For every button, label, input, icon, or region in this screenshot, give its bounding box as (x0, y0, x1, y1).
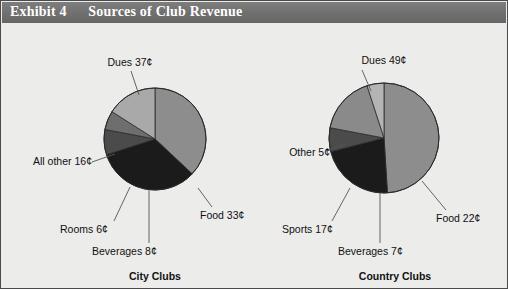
exhibit-body: Dues 37¢ All other 16¢ Food 33¢ Rooms 6¢… (2, 23, 506, 288)
callout-country-other: Other 5¢ (254, 146, 330, 158)
callout-country-food: Food 22¢ (436, 212, 506, 224)
page-title: Sources of Club Revenue (88, 4, 242, 19)
leader-city-rooms (114, 187, 130, 221)
exhibit-figure: Exhibit 4 Sources of Club Revenue Dues 3… (0, 0, 508, 289)
caption-city-clubs: City Clubs (105, 270, 205, 282)
leader-city-dues (131, 71, 139, 95)
exhibit-label: Exhibit 4 (10, 4, 67, 19)
callout-city-rooms: Rooms 6¢ (60, 223, 130, 235)
pie-chart-country-clubs: Dues 49¢ Other 5¢ Food 22¢ Sports 17¢ Be… (254, 23, 506, 288)
callout-city-all-other: All other 16¢ (2, 155, 92, 167)
leader-country-food (422, 181, 446, 210)
callout-country-beverages: Beverages 7¢ (338, 245, 428, 257)
callout-city-dues: Dues 37¢ (80, 56, 180, 68)
leader-city-food (198, 188, 212, 207)
exhibit-header-bar: Exhibit 4 Sources of Club Revenue (2, 2, 506, 23)
header-text-group: Exhibit 4 Sources of Club Revenue (10, 4, 242, 20)
callout-country-dues: Dues 49¢ (334, 54, 434, 66)
pie-chart-city-clubs: Dues 37¢ All other 16¢ Food 33¢ Rooms 6¢… (2, 23, 254, 288)
pie-slice-dues (384, 83, 439, 193)
caption-country-clubs: Country Clubs (335, 270, 455, 282)
callout-country-sports: Sports 17¢ (282, 223, 362, 235)
callout-city-beverages: Beverages 8¢ (92, 245, 182, 257)
leader-country-sports (332, 188, 350, 221)
